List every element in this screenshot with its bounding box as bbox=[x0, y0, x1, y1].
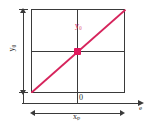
x-dimension-arrow-left-icon bbox=[30, 110, 35, 116]
x-axis-line bbox=[22, 103, 141, 104]
y-dimension-label: y₀ bbox=[8, 45, 16, 52]
x-dimension-label: xₚ bbox=[73, 113, 80, 121]
intersection-marker bbox=[74, 48, 81, 55]
y-dimension-tick-bottom bbox=[19, 92, 28, 93]
line-label: y₀ bbox=[75, 22, 82, 30]
x-dimension-arrow-right-icon bbox=[120, 110, 125, 116]
figure-canvas: y₀ xₚ 0 y₀ e bbox=[0, 0, 149, 135]
y-dimension-tick-top bbox=[19, 9, 28, 10]
origin-label: 0 bbox=[79, 94, 83, 102]
axis-end-label: e bbox=[139, 105, 142, 112]
